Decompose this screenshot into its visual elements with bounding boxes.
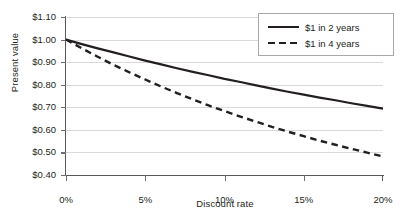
legend-item-0: $1 in 2 years <box>259 19 359 35</box>
legend-label-0: $1 in 2 years <box>305 22 359 33</box>
x-axis-tick <box>66 175 67 181</box>
x-axis-tick <box>225 175 226 181</box>
x-axis-title: Discount rate <box>66 198 384 209</box>
x-axis-tick <box>304 175 305 181</box>
y-axis-tick-label: $0.50 <box>0 147 56 157</box>
y-axis-tick-label: $1.00 <box>0 35 56 45</box>
y-axis-tick-label: $1.10 <box>0 12 56 22</box>
legend-solid-line-icon <box>268 22 299 32</box>
x-axis-tick <box>145 175 146 181</box>
y-axis-tick-label: $0.90 <box>0 57 56 67</box>
series-line <box>66 40 383 157</box>
legend-label-1: $1 in 4 years <box>305 38 359 49</box>
present-value-chart: Present value $0.40$0.50$0.60$0.70$0.80$… <box>0 0 406 219</box>
y-axis-tick-label: $0.80 <box>0 80 56 90</box>
y-axis-tick-label: $0.60 <box>0 125 56 135</box>
legend: $1 in 2 years $1 in 4 years <box>258 13 394 56</box>
y-axis-tick-label: $0.40 <box>0 170 56 180</box>
legend-item-1: $1 in 4 years <box>259 35 359 51</box>
legend-dashed-line-icon <box>268 38 299 48</box>
x-axis-end-tick <box>382 175 383 181</box>
y-axis-tick-label: $0.70 <box>0 102 56 112</box>
